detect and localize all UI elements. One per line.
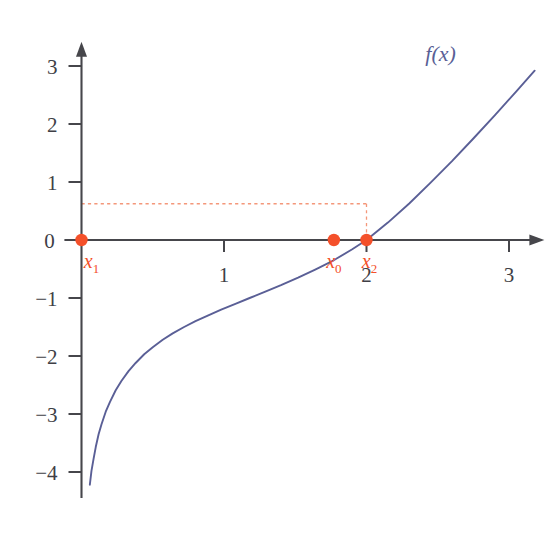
marker-label-base-x2: x [361, 250, 371, 272]
marker-point-x1[interactable] [75, 234, 87, 246]
y-tick-label-0: 0 [44, 229, 55, 253]
x-tick-label-3: 3 [504, 263, 515, 287]
y-tick-label-−3: −3 [35, 403, 57, 427]
y-tick-label-3: 3 [47, 55, 58, 79]
y-tick-label-−1: −1 [35, 287, 57, 311]
figure-root: 123 3210−1−2−3−4 f(x) x1x0x2 [0, 0, 557, 550]
y-tick-label-1: 1 [47, 171, 58, 195]
marker-label-sub-x2: 2 [371, 261, 378, 276]
plot-background [0, 0, 557, 550]
x-tick-label-1: 1 [219, 263, 230, 287]
plot-canvas: 123 3210−1−2−3−4 f(x) x1x0x2 [0, 0, 557, 550]
marker-label-sub-x1: 1 [93, 261, 100, 276]
marker-point-x2[interactable] [360, 234, 372, 246]
y-tick-label-2: 2 [47, 113, 58, 137]
marker-label-sub-x0: 0 [335, 261, 342, 276]
y-tick-label-−4: −4 [35, 461, 58, 485]
y-tick-label-−2: −2 [35, 345, 57, 369]
curve-label: f(x) [425, 41, 456, 66]
marker-point-x0[interactable] [328, 234, 340, 246]
marker-label-base-x1: x [83, 250, 93, 272]
marker-label-base-x0: x [325, 250, 335, 272]
